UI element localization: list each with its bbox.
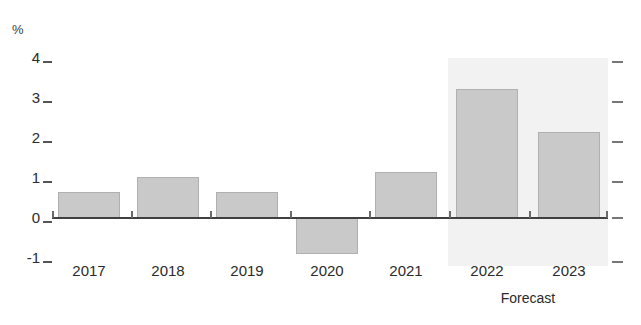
y-tick-2: 2 [0, 128, 54, 148]
y-tick-4: 4 [0, 48, 54, 68]
y-tick-label-3: 3 [32, 88, 40, 108]
bar-2020 [296, 218, 358, 254]
x-label-2021: 2021 [375, 262, 437, 279]
x-label-2019: 2019 [216, 262, 278, 279]
y-tick-label-minus-1: -1 [27, 248, 40, 268]
y-tick-dash-0 [43, 221, 52, 223]
y-tick-dash-1 [43, 181, 52, 183]
bar-2022 [456, 89, 518, 218]
y-tick-minus-1: -1 [0, 248, 54, 268]
y-tick-label-4: 4 [32, 48, 40, 68]
x-label-2018: 2018 [137, 262, 199, 279]
x-tick-2019-2020 [290, 211, 292, 218]
y-tick-dash-3 [43, 101, 52, 103]
x-tick-2017-2018 [131, 211, 133, 218]
y-tick-right-3 [612, 101, 623, 103]
y-tick-label-1: 1 [32, 168, 40, 188]
y-axis-unit-label: % [12, 22, 24, 37]
x-tick-start [52, 211, 54, 218]
bar-2018 [137, 177, 199, 218]
y-tick-right-0 [612, 217, 623, 219]
x-tick-end [606, 211, 608, 218]
y-tick-dash-2 [43, 141, 52, 143]
y-tick-3: 3 [0, 88, 54, 108]
x-label-2023: 2023 [538, 262, 600, 279]
bar-chart: % 4 3 2 1 0 -1 [0, 0, 641, 325]
forecast-caption: Forecast [456, 290, 600, 306]
bar-2021 [375, 172, 437, 218]
x-tick-2018-2019 [210, 211, 212, 218]
x-label-2017: 2017 [58, 262, 120, 279]
zero-axis-line [52, 217, 608, 219]
y-tick-dash-minus-1 [43, 261, 52, 263]
y-tick-right-2 [612, 141, 623, 143]
x-tick-2020-2021 [369, 211, 371, 218]
bar-2023 [538, 132, 600, 218]
y-tick-right-minus-1 [612, 261, 623, 263]
x-tick-2021-2022 [449, 211, 451, 218]
x-tick-2022-2023 [529, 211, 531, 218]
x-label-2022: 2022 [456, 262, 518, 279]
y-tick-1: 1 [0, 168, 54, 188]
y-tick-right-4 [612, 61, 623, 63]
y-tick-dash-4 [43, 61, 52, 63]
y-tick-label-2: 2 [32, 128, 40, 148]
y-tick-right-1 [612, 181, 623, 183]
bar-2017 [58, 192, 120, 218]
y-tick-0: 0 [0, 208, 54, 228]
bar-2019 [216, 192, 278, 218]
y-tick-label-0: 0 [32, 208, 40, 228]
x-label-2020: 2020 [296, 262, 358, 279]
